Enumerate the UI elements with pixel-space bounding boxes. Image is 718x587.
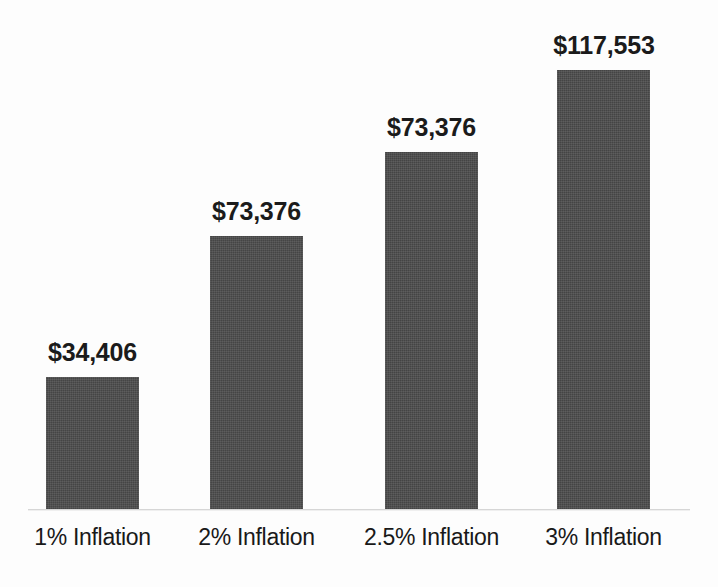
category-label-3-inflation: 3% Inflation [527, 524, 680, 551]
plot-area: $34,406 $73,376 $73,376 $117,553 [0, 0, 718, 512]
bar-1-value-label: $34,406 [36, 338, 149, 367]
category-label-1-inflation: 1% Inflation [16, 524, 169, 551]
category-label-2p5-inflation: 2.5% Inflation [345, 524, 518, 551]
bar-3-value-label: $73,376 [375, 113, 488, 142]
bar-1-inflation [46, 377, 139, 510]
bar-2-inflation [210, 236, 303, 510]
category-label-2-inflation: 2% Inflation [180, 524, 333, 551]
x-axis-baseline [28, 509, 690, 511]
bar-4-value-label: $117,553 [540, 31, 668, 60]
bar-chart: $34,406 $73,376 $73,376 $117,553 1% Infl… [0, 0, 718, 587]
bar-3-inflation [557, 70, 650, 510]
bar-2p5-inflation [385, 152, 478, 510]
bar-2-value-label: $73,376 [200, 197, 313, 226]
x-axis-category-labels: 1% Inflation 2% Inflation 2.5% Inflation… [0, 524, 718, 570]
